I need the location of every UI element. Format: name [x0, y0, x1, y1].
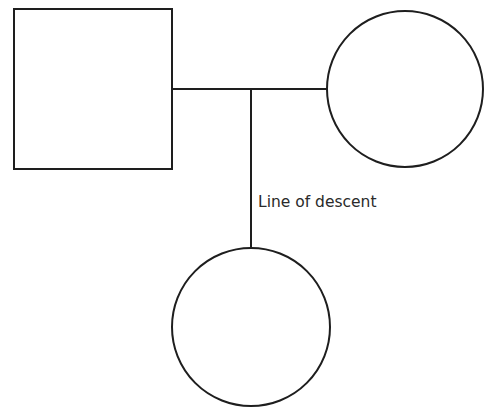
line-of-descent-label: Line of descent [258, 193, 377, 211]
male-square-node [14, 9, 172, 169]
child-circle-node [172, 248, 330, 406]
female-circle-node [327, 11, 483, 167]
pedigree-diagram: Line of descent [0, 0, 485, 414]
